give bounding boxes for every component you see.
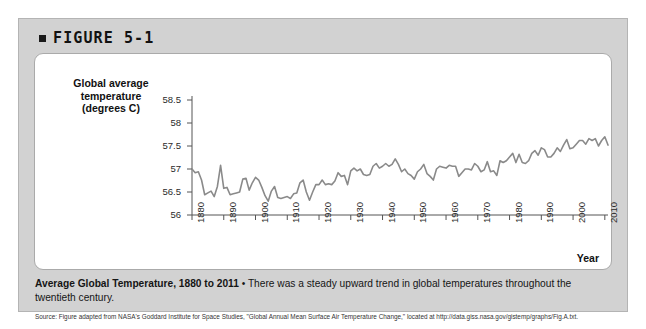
x-tick-label: 1970 [482,202,492,223]
y-tick-label: 56 [151,210,181,220]
figure-header: FIGURE 5-1 [39,29,154,47]
x-axis-title: Year [577,252,599,264]
x-tick-label: 1960 [450,202,460,223]
x-tick-label: 1910 [291,202,301,223]
x-tick-label: 1940 [387,202,397,223]
x-tick-label: 1930 [355,202,365,223]
caption-title: Average Global Temperature, 1880 to 2011 [35,278,239,289]
y-tick-label: 56.5 [151,187,181,197]
figure-panel: FIGURE 5-1 Global average temperature (d… [18,18,628,312]
x-tick-label: 2000 [577,202,587,223]
source-note: Source: Figure adapted from NASA's Godda… [35,313,613,321]
y-tick-label: 58 [151,118,181,128]
y-tick-label: 58.5 [151,95,181,105]
y-tick-label: 57 [151,164,181,174]
caption-text: Average Global Temperature, 1880 to 2011… [35,277,613,305]
temperature-line-chart [35,54,613,271]
x-tick-label: 1920 [323,202,333,223]
x-tick-label: 1900 [260,202,270,223]
square-bullet-icon [39,35,46,42]
y-tick-label: 57.5 [151,141,181,151]
chart-plot-area: 5656.55757.55858.5 188018901900191019201… [35,54,613,271]
x-tick-label: 2010 [609,202,619,223]
x-tick-label: 1890 [228,202,238,223]
x-tick-label: 1990 [545,202,555,223]
x-tick-label: 1980 [514,202,524,223]
x-tick-label: 1950 [418,202,428,223]
figure-label: FIGURE 5-1 [53,29,154,47]
caption-separator: • [239,278,248,289]
chart-card: Global average temperature (degrees C) 5… [34,53,612,270]
caption-block: Average Global Temperature, 1880 to 2011… [35,277,613,321]
x-tick-label: 1880 [196,202,206,223]
